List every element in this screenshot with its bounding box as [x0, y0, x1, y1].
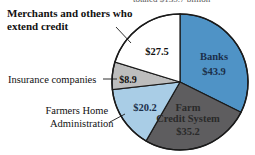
farm-value-label: $35.2 [176, 126, 200, 137]
banks-name-label: Banks [200, 51, 228, 62]
banks-value-label: $43.9 [202, 66, 226, 77]
fmha-label-line2: Administration [50, 117, 114, 130]
insurance-category-label: Insurance companies [8, 74, 96, 85]
insurance-value-label: $8.9 [119, 74, 137, 85]
farm-line2-label: Credit System [156, 113, 220, 124]
merchants-value-label: $27.5 [145, 46, 169, 57]
chart-title: totaled $135.7 billion [133, 0, 210, 4]
fmha-label-line1: Farmers Home [40, 104, 114, 117]
fmha-value-label: $20.2 [133, 102, 157, 113]
farm-line1-label: Farm [175, 102, 200, 113]
merchants-category-label: Merchants and others who extend credit [7, 7, 147, 33]
fmha-category-label: Farmers Home Administration [40, 104, 114, 130]
